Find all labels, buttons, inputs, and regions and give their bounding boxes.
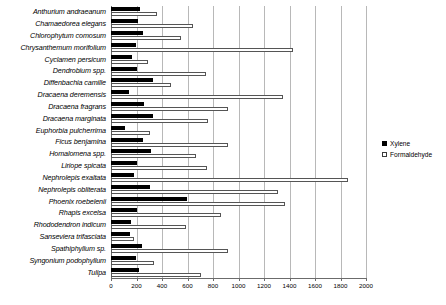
bar-rows — [111, 6, 366, 278]
x-tick-mark — [366, 278, 367, 281]
bar-xylene — [111, 102, 144, 106]
bar-row — [111, 183, 366, 195]
x-tick-label: 2000 — [359, 282, 373, 289]
bar-xylene — [111, 173, 134, 177]
category-label: Homalomena spp. — [0, 148, 109, 160]
bar-xylene — [111, 256, 136, 260]
bar-row — [111, 53, 366, 65]
bar-row — [111, 77, 366, 89]
x-tick-mark — [137, 278, 138, 281]
bar-xylene — [111, 67, 137, 71]
bar-row — [111, 18, 366, 30]
category-label: Tulipa — [0, 266, 109, 278]
category-label: Dendrobium spp. — [0, 65, 109, 77]
x-tick-mark — [239, 278, 240, 281]
bar-xylene — [111, 161, 137, 165]
category-label: Chlorophytum comosum — [0, 30, 109, 42]
bar-xylene — [111, 138, 143, 142]
bar-formaldehyde — [111, 202, 285, 206]
bar-xylene — [111, 185, 150, 189]
bar-row — [111, 160, 366, 172]
bar-row — [111, 136, 366, 148]
bar-formaldehyde — [111, 72, 206, 76]
filled-square-icon — [382, 141, 387, 146]
bar-row — [111, 6, 366, 18]
x-tick-mark — [213, 278, 214, 281]
bar-formaldehyde — [111, 273, 201, 277]
bar-row — [111, 112, 366, 124]
bar-formaldehyde — [111, 36, 181, 40]
category-label: Spathiphyllum sp. — [0, 243, 109, 255]
bar-formaldehyde — [111, 261, 154, 265]
x-tick-mark — [290, 278, 291, 281]
bar-row — [111, 124, 366, 136]
x-tick-label: 200 — [131, 282, 141, 289]
bar-formaldehyde — [111, 107, 228, 111]
category-label: Dracaena fragrans — [0, 101, 109, 113]
bar-xylene — [111, 149, 151, 153]
bar-formaldehyde — [111, 154, 196, 158]
bar-formaldehyde — [111, 190, 278, 194]
bar-formaldehyde — [111, 213, 221, 217]
bar-xylene — [111, 7, 140, 11]
bar-row — [111, 41, 366, 53]
open-square-icon — [382, 152, 387, 157]
chart-legend: Xylene Formaldehyde — [382, 140, 444, 162]
bar-row — [111, 172, 366, 184]
bar-formaldehyde — [111, 60, 148, 64]
x-axis: 0200400600800100012001400160018002000 — [111, 278, 366, 302]
x-tick-mark — [188, 278, 189, 281]
bar-xylene — [111, 43, 136, 47]
bar-row — [111, 195, 366, 207]
bar-xylene — [111, 208, 137, 212]
bar-formaldehyde — [111, 178, 348, 182]
category-label: Anthurium andraeanum — [0, 6, 109, 18]
legend-label: Formaldehyde — [390, 151, 432, 158]
category-axis-labels: Anthurium andraeanumChamaedorea elegansC… — [0, 6, 109, 278]
category-label: Nephrolepis obliterata — [0, 183, 109, 195]
x-tick-mark — [111, 278, 112, 281]
category-label: Sanseviera trifasciata — [0, 231, 109, 243]
x-tick-label: 1400 — [283, 282, 297, 289]
category-label: Euphorbia pulcherrima — [0, 124, 109, 136]
x-tick-mark — [162, 278, 163, 281]
x-tick-label: 0 — [109, 282, 112, 289]
x-tick-mark — [264, 278, 265, 281]
bar-formaldehyde — [111, 225, 186, 229]
bar-xylene — [111, 126, 125, 130]
bar-xylene — [111, 114, 153, 118]
bar-xylene — [111, 244, 142, 248]
plot-area — [111, 6, 366, 278]
bar-row — [111, 231, 366, 243]
horizontal-bar-chart: Anthurium andraeanumChamaedorea elegansC… — [0, 0, 446, 305]
x-tick-label: 1600 — [308, 282, 322, 289]
bar-row — [111, 30, 366, 42]
bar-formaldehyde — [111, 166, 207, 170]
category-label: Rhododendron indicum — [0, 219, 109, 231]
bar-row — [111, 89, 366, 101]
bar-formaldehyde — [111, 83, 171, 87]
legend-item-xylene: Xylene — [382, 140, 444, 147]
x-tick-label: 600 — [182, 282, 192, 289]
bar-xylene — [111, 55, 132, 59]
bar-formaldehyde — [111, 119, 208, 123]
bar-formaldehyde — [111, 249, 228, 253]
bar-row — [111, 65, 366, 77]
category-label: Nephrolepis exaltata — [0, 172, 109, 184]
bar-row — [111, 101, 366, 113]
bar-formaldehyde — [111, 24, 193, 28]
x-tick-label: 400 — [157, 282, 167, 289]
bar-xylene — [111, 90, 129, 94]
bar-row — [111, 254, 366, 266]
category-label: Diffenbachia camille — [0, 77, 109, 89]
bar-row — [111, 219, 366, 231]
category-label: Chamaedorea elegans — [0, 18, 109, 30]
x-tick-label: 1000 — [232, 282, 246, 289]
gridline — [366, 6, 367, 278]
category-label: Chrysanthemum morifolium — [0, 41, 109, 53]
category-label: Liriope spicata — [0, 160, 109, 172]
x-tick-mark — [341, 278, 342, 281]
bar-xylene — [111, 197, 187, 201]
bar-row — [111, 207, 366, 219]
bar-xylene — [111, 19, 138, 23]
